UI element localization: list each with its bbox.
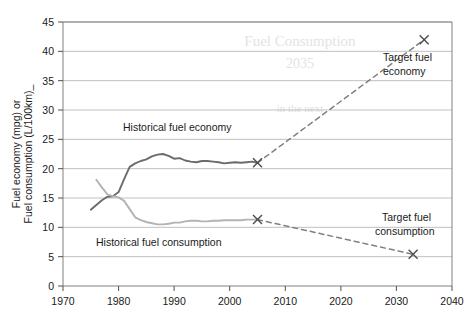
x-tick-label-1980: 1980 bbox=[107, 295, 131, 307]
x-tick-label-1990: 1990 bbox=[162, 295, 186, 307]
x-tick-label-2030: 2030 bbox=[385, 295, 409, 307]
y-tick-label-0: 0 bbox=[48, 280, 54, 292]
y-axis-title: Fuel economy (mpg) or Fuel consumption (… bbox=[10, 84, 34, 223]
y-tick-label-30: 30 bbox=[42, 104, 54, 116]
ghost-text-line1: Fuel Consumption bbox=[244, 33, 356, 49]
x-tick-label-1970: 1970 bbox=[51, 295, 75, 307]
y-tick-label-45: 45 bbox=[42, 16, 54, 28]
ghost-text-line3: in the next bbox=[277, 102, 323, 114]
y-tick-label-35: 35 bbox=[42, 75, 54, 87]
y-tick-label-40: 40 bbox=[42, 45, 54, 57]
chart-figure: Fuel Consumption 2035 in the next bbox=[0, 0, 471, 322]
annotation-target-fuel-economy-line1: Target fuel bbox=[383, 51, 432, 63]
figure-background bbox=[0, 0, 471, 322]
x-tick-label-2000: 2000 bbox=[218, 295, 242, 307]
y-tick-label-20: 20 bbox=[42, 163, 54, 175]
y-tick-label-15: 15 bbox=[42, 192, 54, 204]
x-tick-label-2020: 2020 bbox=[329, 295, 353, 307]
y-tick-label-5: 5 bbox=[48, 251, 54, 263]
annotation-target-fuel-consumption-line1: Target fuel bbox=[382, 211, 431, 223]
ghost-text-line2: 2035 bbox=[286, 56, 314, 71]
y-tick-label-10: 10 bbox=[42, 221, 54, 233]
annotation-historical-fuel-consumption: Historical fuel consumption bbox=[96, 236, 222, 248]
annotation-target-fuel-consumption-line2: consumption bbox=[375, 225, 435, 237]
annotation-historical-fuel-economy: Historical fuel economy bbox=[123, 121, 232, 133]
annotation-target-fuel-economy-line2: economy bbox=[383, 65, 426, 77]
y-axis-title-line2: Fuel consumption (L/100km)_ bbox=[22, 84, 34, 223]
x-tick-label-2040: 2040 bbox=[440, 295, 464, 307]
y-tick-label-25: 25 bbox=[42, 133, 54, 145]
fuel-economy-chart: Fuel Consumption 2035 in the next bbox=[0, 0, 471, 322]
y-axis-title-line1: Fuel economy (mpg) or bbox=[10, 99, 22, 208]
x-tick-label-2010: 2010 bbox=[274, 295, 298, 307]
